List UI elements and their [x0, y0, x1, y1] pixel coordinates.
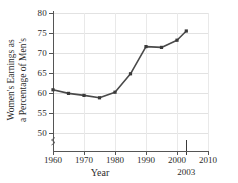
- data-point-marker: [82, 94, 85, 97]
- series-markers: [51, 29, 188, 99]
- data-point-marker: [113, 91, 116, 94]
- data-point-marker: [144, 45, 147, 48]
- data-point-marker: [67, 92, 70, 95]
- data-point-marker: [98, 96, 101, 99]
- series-line: [53, 31, 186, 98]
- data-point-marker: [175, 39, 178, 42]
- data-series-layer: [0, 0, 238, 183]
- data-point-marker: [129, 72, 132, 75]
- x-axis-title: Year: [0, 167, 200, 178]
- data-point-marker: [185, 29, 188, 32]
- chart-container: Women's Earnings as a Percentage of Men'…: [0, 0, 238, 183]
- data-point-marker: [51, 88, 54, 91]
- data-point-marker: [160, 46, 163, 49]
